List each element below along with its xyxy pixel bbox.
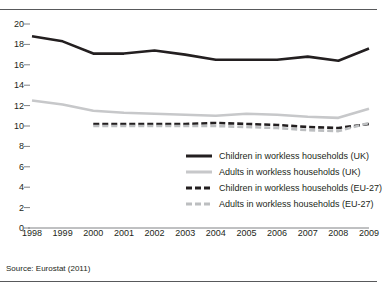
legend-item: Children in workless households (UK) (186, 148, 376, 164)
x-tick-label: 2007 (293, 229, 323, 238)
legend-line-sample (186, 155, 212, 158)
legend-line-sample (186, 187, 212, 190)
legend-swatch-icon (186, 183, 212, 193)
legend-item: Children in workless households (EU-27) (186, 180, 376, 196)
y-tick-label: 2 (2, 204, 24, 213)
x-tick-label: 2000 (78, 229, 108, 238)
x-tick-label: 2005 (231, 229, 261, 238)
legend-label: Adults in workless households (UK) (219, 168, 361, 177)
legend-line-sample (186, 203, 212, 206)
y-tick-label: 14 (2, 81, 24, 90)
legend-label: Adults in workless households (EU-27) (219, 200, 374, 209)
y-tick-label: 16 (2, 61, 24, 70)
x-tick-label: 2001 (109, 229, 139, 238)
source-note: Source: Eurostat (2011) (6, 264, 90, 273)
y-tick-label: 12 (2, 102, 24, 111)
x-tick-label: 2002 (140, 229, 170, 238)
legend-label: Children in workless households (EU-27) (219, 184, 382, 193)
legend-item: Adults in workless households (UK) (186, 164, 376, 180)
y-tick-label: 10 (2, 122, 24, 131)
x-tick-label: 2004 (201, 229, 231, 238)
y-tick-label: 4 (2, 183, 24, 192)
legend-item: Adults in workless households (EU-27) (186, 196, 376, 212)
x-tick-label: 2009 (354, 229, 384, 238)
x-tick-label: 1999 (48, 229, 78, 238)
y-tick-label: 6 (2, 163, 24, 172)
x-tick-label: 2003 (170, 229, 200, 238)
series-line-children_uk (32, 36, 369, 60)
y-tick-label: 20 (2, 20, 24, 29)
y-tick-label: 8 (2, 142, 24, 151)
chart-legend: Children in workless households (UK)Adul… (186, 148, 376, 212)
x-tick-label: 1998 (17, 229, 47, 238)
legend-swatch-icon (186, 151, 212, 161)
x-tick-label: 2008 (323, 229, 353, 238)
bottom-rule (0, 281, 377, 282)
legend-label: Children in workless households (UK) (219, 152, 369, 161)
x-tick-label: 2006 (262, 229, 292, 238)
legend-line-sample (186, 171, 212, 174)
y-tick-label: 18 (2, 40, 24, 49)
legend-swatch-icon (186, 167, 212, 177)
legend-swatch-icon (186, 199, 212, 209)
series-line-adults_uk (32, 101, 369, 118)
